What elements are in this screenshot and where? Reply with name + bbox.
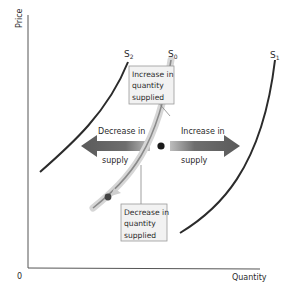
increase-supply-line1: Increase in bbox=[181, 127, 225, 136]
x-axis-label: Quantity bbox=[232, 273, 267, 282]
callout-decrease-line1: Decrease in bbox=[124, 208, 169, 217]
point-equilibrium-s0 bbox=[157, 142, 164, 149]
callout-increase-line1: Increase in bbox=[132, 70, 174, 79]
decrease-supply-line1: Decrease in bbox=[98, 127, 145, 136]
y-axis-label: Price bbox=[15, 8, 24, 28]
callout-increase-line2: quantity bbox=[132, 81, 164, 90]
point-lower-s0 bbox=[105, 194, 112, 201]
increase-supply-line2: supply bbox=[181, 156, 208, 165]
decrease-supply-line2: supply bbox=[102, 156, 129, 165]
x-axis bbox=[28, 268, 260, 269]
origin-label: 0 bbox=[17, 272, 22, 281]
supply-curve-s2: S2 bbox=[40, 49, 134, 172]
s2-label: S2 bbox=[124, 49, 134, 60]
callout-increase-line3: supplied bbox=[132, 93, 164, 102]
right-arrow-icon bbox=[170, 135, 240, 157]
callout-increase-quantity-supplied: Increase in quantity supplied bbox=[129, 66, 174, 116]
callout-decrease-line2: quantity bbox=[124, 219, 156, 228]
increase-supply-arrow: Increase in supply bbox=[170, 127, 240, 165]
s1-label: S1 bbox=[270, 50, 280, 61]
s0-label: S0 bbox=[168, 49, 178, 60]
supply-shift-diagram: Price 0 Quantity Decrease in supply Incr… bbox=[0, 0, 299, 291]
callout-decrease-line3: supplied bbox=[124, 231, 156, 240]
